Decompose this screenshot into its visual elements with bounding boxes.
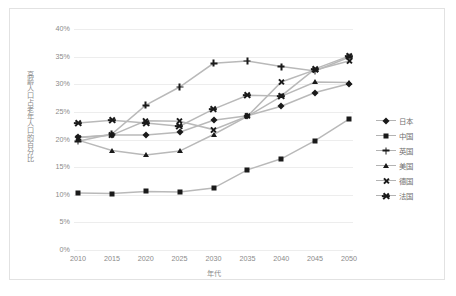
legend-swatch (376, 176, 396, 185)
data-point-英国-2030 (210, 60, 217, 67)
legend-item-美国[interactable]: 美国 (376, 158, 446, 173)
legend-swatch (376, 131, 396, 140)
data-point-德国-2010 (75, 134, 82, 141)
legend-item-德国[interactable]: 德国 (376, 173, 446, 188)
data-point-中国-2040 (279, 156, 284, 161)
legend-marker-diamond-icon (382, 117, 389, 124)
data-point-英国-2040 (278, 63, 285, 70)
y-axis-tick: 25% (34, 108, 70, 116)
y-axis-tick: 30% (34, 80, 70, 88)
plot-area (74, 29, 353, 250)
data-point-法国-2050 (345, 52, 353, 60)
legend-label: 英国 (399, 145, 413, 156)
data-point-英国-2025 (176, 84, 183, 91)
data-point-法国-2010 (74, 119, 82, 127)
legend-swatch (376, 191, 396, 200)
x-axis-tick-labels: 201020152020202520302035204020452050 (74, 254, 353, 266)
y-axis-tick: 0% (34, 246, 70, 254)
data-point-德国-2040 (278, 79, 285, 86)
gridline (74, 250, 353, 251)
y-axis-tick: 35% (34, 53, 70, 61)
y-axis-tick: 15% (34, 163, 70, 171)
legend-item-英国[interactable]: 英国 (376, 143, 446, 158)
data-point-中国-2015 (109, 191, 114, 196)
legend-label: 德国 (399, 175, 413, 186)
data-point-中国-2035 (245, 167, 250, 172)
data-point-英国-2035 (244, 58, 251, 65)
data-point-美国-2050 (346, 80, 352, 85)
data-point-中国-2045 (313, 138, 318, 143)
legend-item-日本[interactable]: 日本 (376, 113, 446, 128)
x-axis-tick: 2050 (329, 254, 369, 263)
data-point-法国-2040 (278, 92, 286, 100)
data-point-德国-2035 (244, 113, 251, 120)
y-axis-tick: 20% (34, 136, 70, 144)
legend-marker-cross-icon (383, 177, 390, 184)
data-point-中国-2020 (143, 189, 148, 194)
y-axis-tick: 10% (34, 191, 70, 199)
data-point-中国-2050 (347, 117, 352, 122)
data-point-中国-2010 (76, 191, 81, 196)
data-point-英国-2020 (142, 102, 149, 109)
legend-swatch (376, 146, 396, 155)
y-axis-tick: 40% (34, 25, 70, 33)
legend-marker-triangle-icon (383, 163, 389, 168)
data-point-法国-2030 (210, 105, 218, 113)
data-point-德国-2030 (210, 126, 217, 133)
data-point-法国-2035 (244, 92, 252, 100)
data-point-法国-2020 (142, 119, 150, 127)
legend-marker-plus-icon (383, 147, 390, 154)
legend-marker-square-icon (384, 133, 389, 138)
legend-label: 中国 (399, 130, 413, 141)
chart-legend: 日本中国英国美国德国法国 (376, 113, 446, 203)
legend-item-法国[interactable]: 法国 (376, 188, 446, 203)
data-point-美国-2020 (143, 152, 149, 157)
data-point-法国-2045 (311, 65, 319, 73)
data-point-法国-2025 (176, 122, 184, 130)
legend-swatch (376, 116, 396, 125)
data-point-美国-2045 (312, 79, 318, 84)
legend-item-中国[interactable]: 中国 (376, 128, 446, 143)
legend-label: 日本 (399, 115, 413, 126)
x-axis-title: 年代 (74, 268, 353, 278)
data-point-法国-2015 (108, 116, 116, 124)
chart-container: 高齢人口占老年人口的百分比 0%5%10%15%20%25%30%35%40% … (9, 8, 445, 280)
data-point-中国-2030 (211, 186, 216, 191)
data-point-美国-2025 (177, 148, 183, 153)
data-point-中国-2025 (177, 190, 182, 195)
data-point-美国-2015 (109, 148, 115, 153)
y-axis-tick: 5% (34, 218, 70, 226)
legend-label: 法国 (399, 190, 413, 201)
legend-swatch (376, 161, 396, 170)
data-point-德国-2015 (108, 132, 115, 139)
legend-label: 美国 (399, 160, 413, 171)
y-axis-tick-labels: 0%5%10%15%20%25%30%35%40% (28, 29, 70, 250)
legend-marker-star-icon (382, 192, 390, 200)
